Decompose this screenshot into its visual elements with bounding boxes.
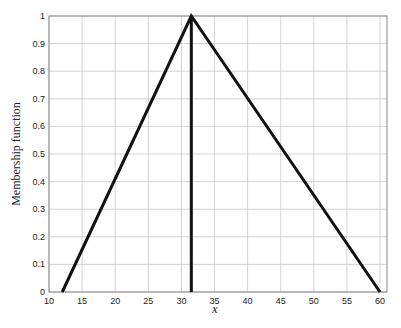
y-tick-label: 0.7 [32,94,45,104]
x-tick-label: 30 [176,296,186,306]
membership-function-chart: 1015202530354045505560 00.10.20.30.40.50… [0,0,401,328]
x-tick-label: 55 [342,296,352,306]
y-tick-label: 0.3 [32,204,45,214]
y-tick-label: 0 [40,287,45,297]
y-tick-label: 0.9 [32,39,45,49]
x-tick-label: 40 [243,296,253,306]
x-tick-label: 20 [110,296,120,306]
y-tick-label: 0.4 [32,177,45,187]
y-axis-label: Membership function [9,102,23,206]
y-tick-label: 1 [40,11,45,21]
x-tick-label: 10 [44,296,54,306]
x-tick-label: 15 [77,296,87,306]
y-tick-label: 0.5 [32,149,45,159]
x-tick-label: 45 [276,296,286,306]
x-tick-label: 60 [375,296,385,306]
x-tick-label: 25 [143,296,153,306]
y-tick-label: 0.8 [32,66,45,76]
x-axis-label: x [211,302,218,316]
x-tick-label: 50 [309,296,319,306]
y-tick-label: 0.6 [32,121,45,131]
y-tick-label: 0.1 [32,259,45,269]
y-tick-label: 0.2 [32,232,45,242]
y-axis-ticks: 00.10.20.30.40.50.60.70.80.91 [32,11,45,297]
